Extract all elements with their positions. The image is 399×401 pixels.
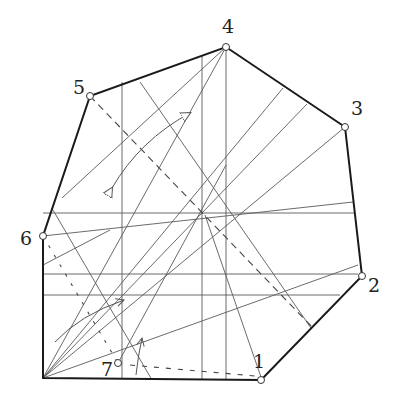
label-5: 5 <box>73 76 85 98</box>
vertex-5 <box>87 93 94 100</box>
vertex-1 <box>258 377 265 384</box>
double-arrow-icon <box>112 113 190 188</box>
vertex-4 <box>223 44 230 51</box>
label-4: 4 <box>222 15 234 37</box>
crease-pattern-diagram: 1 2 3 4 5 6 7 <box>0 0 399 401</box>
label-1: 1 <box>253 350 265 372</box>
vertex-2 <box>359 273 366 280</box>
dashed-fold-lines <box>43 96 312 376</box>
label-2: 2 <box>368 274 380 296</box>
swing-arrow-icon <box>55 300 124 342</box>
label-7: 7 <box>101 358 113 380</box>
vertex-6 <box>40 233 47 240</box>
vertex-3 <box>342 124 349 131</box>
fold-arrows <box>55 113 190 375</box>
label-6: 6 <box>20 227 32 249</box>
vertex-7 <box>115 360 122 367</box>
label-3: 3 <box>351 97 363 119</box>
